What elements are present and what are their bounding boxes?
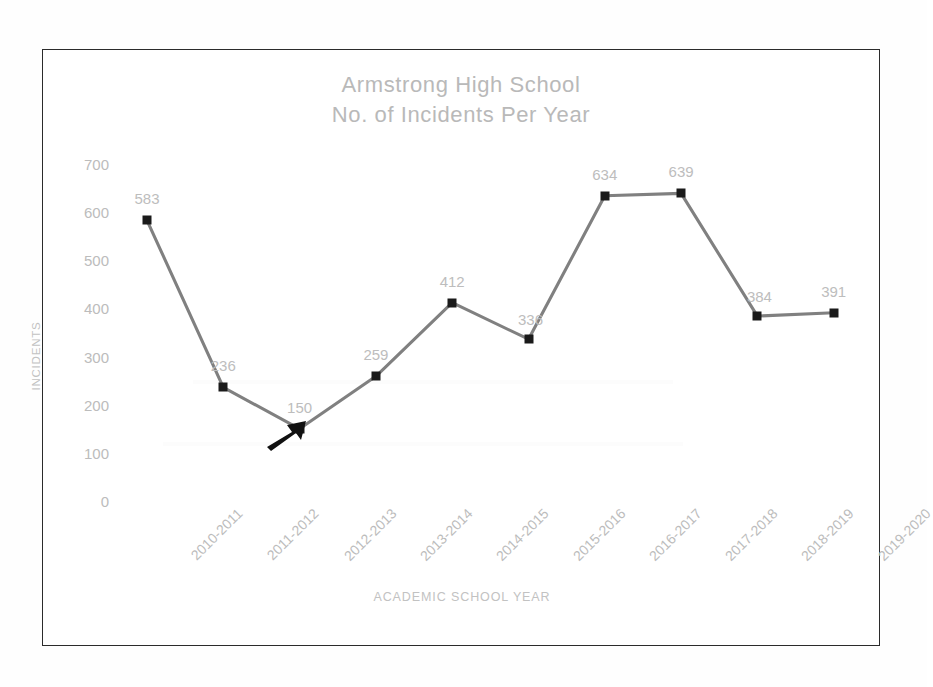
data-point-label: 336 — [518, 312, 543, 327]
data-point-label: 583 — [134, 191, 159, 206]
data-point-marker — [448, 298, 457, 307]
data-point-marker — [829, 308, 838, 317]
data-point-label: 639 — [669, 164, 694, 179]
data-point-marker — [677, 189, 686, 198]
data-point-label: 259 — [363, 347, 388, 362]
data-point-marker — [219, 383, 228, 392]
data-point-label: 391 — [821, 284, 846, 299]
data-point-label: 384 — [747, 289, 772, 304]
data-point-marker — [371, 372, 380, 381]
data-point-label: 150 — [287, 400, 312, 415]
data-point-label: 236 — [211, 358, 236, 373]
data-point-label: 412 — [440, 274, 465, 289]
data-point-marker — [524, 335, 533, 344]
chart-frame: Armstrong High School No. of Incidents P… — [42, 49, 880, 646]
x-axis-title: ACADEMIC SCHOOL YEAR — [43, 590, 881, 604]
data-point-marker — [753, 312, 762, 321]
data-point-marker — [143, 216, 152, 225]
data-point-label: 634 — [592, 167, 617, 182]
annotation-arrow-icon — [265, 418, 311, 458]
plot-area: INCIDENTS 7006005004003002001000 5832361… — [43, 50, 881, 647]
y-axis-title: INCIDENTS — [30, 321, 42, 390]
series-line-incidents — [43, 50, 881, 647]
data-point-marker — [600, 191, 609, 200]
x-axis-tick-label: 2019-2020 — [875, 506, 932, 563]
